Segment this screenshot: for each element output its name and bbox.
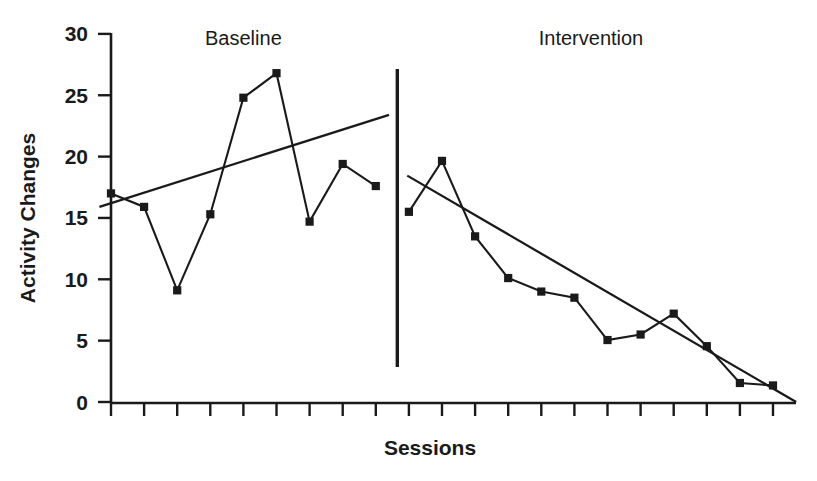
data-point-marker [438,157,446,165]
data-point-marker [372,182,380,190]
data-point-marker [736,379,744,387]
data-point-marker [703,342,711,350]
data-point-marker [769,381,777,389]
y-tick-label-5: 5 [76,329,88,352]
data-point-marker [107,189,115,197]
data-point-marker [537,287,545,295]
y-axis-tick-labels: 051015202530 [65,22,89,413]
phase-label-intervention: Intervention [539,27,644,49]
data-point-marker [471,232,479,240]
y-axis-ticks [98,34,111,402]
data-point-marker [306,218,314,226]
data-point-marker [339,160,347,168]
data-point-marker [603,336,611,344]
chart-container: 051015202530 Baseline Intervention Activ… [0,0,817,481]
y-tick-label-0: 0 [76,391,88,414]
y-tick-label-25: 25 [65,84,89,107]
trend-lines-group [99,115,796,402]
single-case-design-line-chart: 051015202530 Baseline Intervention Activ… [0,0,817,481]
y-axis-title: Activity Changes [16,133,39,303]
data-markers-group [107,69,777,389]
data-point-marker [504,274,512,282]
data-point-marker [206,210,214,218]
data-point-marker [173,286,181,294]
data-series-group [111,73,773,385]
y-tick-label-20: 20 [65,145,88,168]
y-tick-label-15: 15 [65,206,89,229]
x-axis-title: Sessions [384,436,476,459]
series-line-baseline [111,73,376,290]
data-point-marker [670,310,678,318]
data-point-marker [239,94,247,102]
series-line-intervention [409,161,773,386]
data-point-marker [570,294,578,302]
data-point-marker [637,330,645,338]
phase-label-baseline: Baseline [205,27,282,49]
data-point-marker [140,203,148,211]
data-point-marker [405,208,413,216]
trend-line-intervention [407,176,796,402]
y-tick-label-10: 10 [65,268,88,291]
data-point-marker [272,69,280,77]
y-tick-label-30: 30 [65,22,88,45]
x-axis-ticks [111,403,773,416]
